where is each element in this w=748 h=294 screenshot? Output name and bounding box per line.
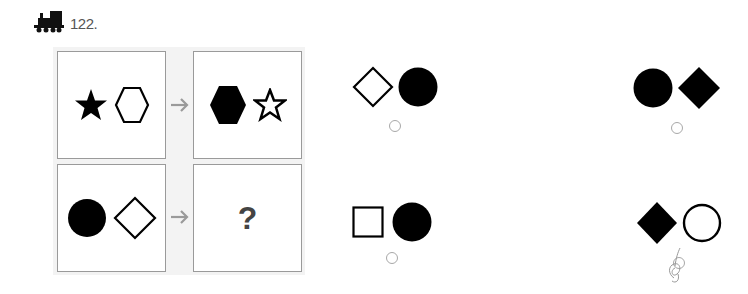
outline-hexagon-icon [114, 86, 150, 124]
option-b[interactable] [633, 66, 721, 134]
filled-circle-icon [392, 202, 432, 242]
outline-square-icon [352, 206, 384, 238]
puzzle-row1-right-box [193, 51, 302, 159]
puzzle-answer-box: ? [193, 164, 302, 272]
outline-diamond-icon [352, 66, 394, 108]
puzzle-row2-left-box [57, 164, 166, 272]
option-c-radio[interactable] [386, 252, 398, 264]
puzzle-row1-left-box [57, 51, 166, 159]
filled-circle-icon [633, 68, 673, 108]
pencil-scribble-mark [660, 244, 690, 284]
filled-diamond-icon [677, 66, 721, 110]
filled-hexagon-icon [209, 85, 247, 125]
outline-circle-icon [682, 203, 722, 243]
question-mark: ? [238, 200, 258, 237]
filled-star-icon [74, 88, 108, 122]
arrow-right-icon [170, 98, 190, 112]
train-icon [34, 9, 66, 33]
question-number: 122. [70, 15, 97, 32]
option-b-radio[interactable] [671, 122, 683, 134]
option-a[interactable] [352, 66, 438, 132]
option-c[interactable] [352, 202, 432, 264]
filled-diamond-icon [636, 201, 678, 245]
question-header: 122. [34, 9, 97, 33]
arrow-right-icon [170, 210, 190, 224]
outline-star-icon [253, 88, 287, 122]
filled-circle-icon [398, 67, 438, 107]
outline-diamond-icon [113, 196, 157, 240]
option-a-radio[interactable] [389, 120, 401, 132]
filled-circle-icon [67, 198, 107, 238]
